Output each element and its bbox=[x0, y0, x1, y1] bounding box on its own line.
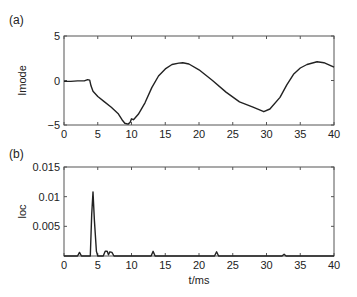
y-tick-label: 0.005 bbox=[32, 220, 60, 232]
x-tick-label: 25 bbox=[227, 259, 239, 271]
axes-frame bbox=[64, 36, 334, 125]
x-tick-label: 10 bbox=[125, 128, 137, 140]
x-tick-label: 0 bbox=[61, 128, 67, 140]
axes-frame bbox=[64, 167, 334, 256]
figure: (a) 0510152025303540−505 Imode (b) 05101… bbox=[0, 0, 357, 297]
y-tick-label: 0 bbox=[54, 75, 60, 87]
panel-b-label: (b) bbox=[9, 147, 24, 161]
x-tick-label: 15 bbox=[159, 128, 171, 140]
panel-b-plot: 05101520253035400.0050.010.015 bbox=[32, 161, 340, 271]
series-line bbox=[64, 192, 334, 256]
panel-b-ylabel: loc bbox=[16, 204, 28, 219]
panel-b-xlabel: t/ms bbox=[189, 274, 210, 286]
x-tick-label: 15 bbox=[159, 259, 171, 271]
x-tick-label: 40 bbox=[328, 128, 340, 140]
x-tick-label: 30 bbox=[260, 128, 272, 140]
x-tick-label: 25 bbox=[227, 128, 239, 140]
series-line bbox=[64, 62, 334, 124]
y-tick-label: 0.01 bbox=[39, 191, 60, 203]
panel-a-label: (a) bbox=[9, 13, 24, 27]
panel-a-plot: 0510152025303540−505 bbox=[47, 30, 340, 140]
x-tick-label: 10 bbox=[125, 259, 137, 271]
y-tick-label: 5 bbox=[54, 30, 60, 42]
x-tick-label: 35 bbox=[294, 259, 306, 271]
panel-a-ylabel: Imode bbox=[16, 65, 28, 96]
x-tick-label: 20 bbox=[193, 259, 205, 271]
x-tick-label: 0 bbox=[61, 259, 67, 271]
x-tick-label: 20 bbox=[193, 128, 205, 140]
y-tick-label: −5 bbox=[47, 119, 60, 131]
x-tick-label: 5 bbox=[95, 128, 101, 140]
x-tick-label: 30 bbox=[260, 259, 272, 271]
x-tick-label: 40 bbox=[328, 259, 340, 271]
x-tick-label: 35 bbox=[294, 128, 306, 140]
x-tick-label: 5 bbox=[95, 259, 101, 271]
y-tick-label: 0.015 bbox=[32, 161, 60, 173]
